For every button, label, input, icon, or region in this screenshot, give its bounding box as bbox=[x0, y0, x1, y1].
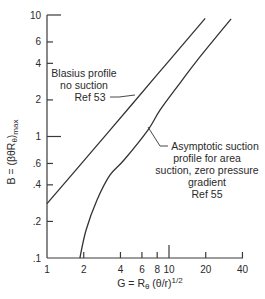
y-tick-label: .1 bbox=[33, 253, 42, 264]
blasius-leader-line bbox=[110, 95, 135, 97]
blasius-label-line3: Ref 53 bbox=[75, 91, 106, 103]
x-tick-label: 8 bbox=[154, 264, 160, 275]
x-axis-title: G = Rθ (θ/r)1/2 bbox=[117, 276, 183, 291]
asymptotic-label-line4: gradient bbox=[188, 176, 226, 188]
x-tick-label: 2 bbox=[81, 264, 87, 275]
x-tick-label: 10 bbox=[163, 264, 175, 275]
y-axis-title: B = (βθRθ)max bbox=[5, 119, 20, 184]
y-tick-label: 1 bbox=[35, 131, 41, 142]
x-tick-label: 1 bbox=[44, 264, 50, 275]
x-axis-ticks: 12468102040 bbox=[44, 245, 248, 275]
chart: .1.2.4.6124610 12468102040 Blasius profi… bbox=[0, 0, 265, 299]
asymptotic-leader-line bbox=[148, 127, 168, 146]
y-axis-ticks: .1.2.4.6124610 bbox=[30, 10, 61, 264]
y-tick-label: .2 bbox=[33, 216, 42, 227]
blasius-annotation: Blasius profile no suction Ref 53 bbox=[51, 67, 117, 103]
x-tick-label: 6 bbox=[139, 264, 145, 275]
asymptotic-annotation: Asymptotic suction profile for area suct… bbox=[155, 140, 259, 200]
x-tick-label: 20 bbox=[200, 264, 212, 275]
y-tick-label: 6 bbox=[35, 36, 41, 47]
asymptotic-label-line3: suction, zero pressure bbox=[155, 164, 258, 176]
axes bbox=[47, 15, 243, 258]
asymptotic-label-line2: profile for area bbox=[173, 152, 241, 164]
x-tick-label: 4 bbox=[118, 264, 124, 275]
blasius-label-line1: Blasius profile bbox=[51, 67, 117, 79]
y-tick-label: 10 bbox=[30, 10, 42, 21]
x-tick-label: 40 bbox=[237, 264, 249, 275]
blasius-label-line2: no suction bbox=[60, 79, 108, 91]
asymptotic-label-line1: Asymptotic suction bbox=[171, 140, 259, 152]
y-tick-label: .4 bbox=[33, 179, 42, 190]
y-tick-label: 2 bbox=[35, 94, 41, 105]
y-tick-label: .6 bbox=[33, 158, 42, 169]
asymptotic-label-line5: Ref 55 bbox=[192, 188, 223, 200]
y-tick-label: 4 bbox=[35, 58, 41, 69]
